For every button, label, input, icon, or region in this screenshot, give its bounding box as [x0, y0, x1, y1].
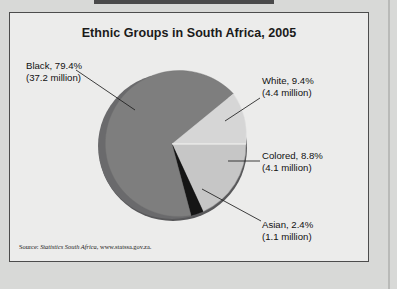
- pie-label-black-line2: (37.2 million): [26, 72, 82, 84]
- pie-label-asian-line1: Asian, 2.4%: [262, 219, 313, 230]
- pie-label-colored: Colored, 8.8% (4.1 million): [262, 150, 323, 173]
- pie-label-black-line1: Black, 79.4%: [26, 60, 82, 71]
- pie-label-white-line2: (4.4 million): [262, 87, 314, 99]
- pie-chart: [10, 13, 370, 263]
- source-publisher: Statistics South Africa,: [40, 243, 98, 250]
- pie-label-asian: Asian, 2.4% (1.1 million): [262, 219, 313, 242]
- source-prefix: Source:: [19, 243, 40, 250]
- source-url: www.statssa.gov.za.: [98, 243, 151, 250]
- column-rule: [388, 0, 390, 289]
- top-heading-rule: [94, 0, 274, 4]
- pie-label-colored-line1: Colored, 8.8%: [262, 150, 323, 161]
- page-canvas: Ethnic Groups in South Africa, 2005: [0, 0, 397, 289]
- pie-label-black: Black, 79.4% (37.2 million): [26, 60, 82, 83]
- figure-frame: Ethnic Groups in South Africa, 2005: [9, 12, 369, 262]
- pie-label-colored-line2: (4.1 million): [262, 162, 323, 174]
- pie-label-white: White, 9.4% (4.4 million): [262, 75, 314, 98]
- pie-label-white-line1: White, 9.4%: [262, 75, 314, 86]
- chart-source: Source: Statistics South Africa, www.sta…: [19, 243, 151, 250]
- pie-label-asian-line2: (1.1 million): [262, 231, 313, 243]
- pie-chart-svg: [10, 13, 370, 263]
